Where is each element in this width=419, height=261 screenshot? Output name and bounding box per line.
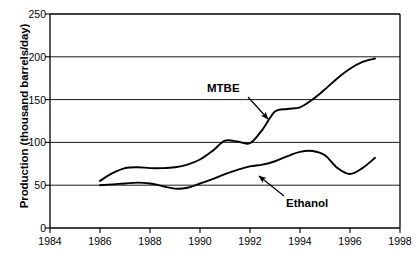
x-axis-ticks xyxy=(50,228,400,233)
annotation-arrow-ethanol xyxy=(259,176,284,196)
series-line-ethanol xyxy=(100,151,375,189)
plot-frame xyxy=(50,14,400,228)
gridlines xyxy=(50,57,400,185)
chart-figure: Production (thousand barrels/day) 250 20… xyxy=(0,0,419,261)
y-axis-ticks xyxy=(45,14,50,228)
series-line-mtbe xyxy=(100,59,375,181)
annotation-arrow-mtbe xyxy=(248,97,268,119)
plot-canvas xyxy=(0,0,419,261)
